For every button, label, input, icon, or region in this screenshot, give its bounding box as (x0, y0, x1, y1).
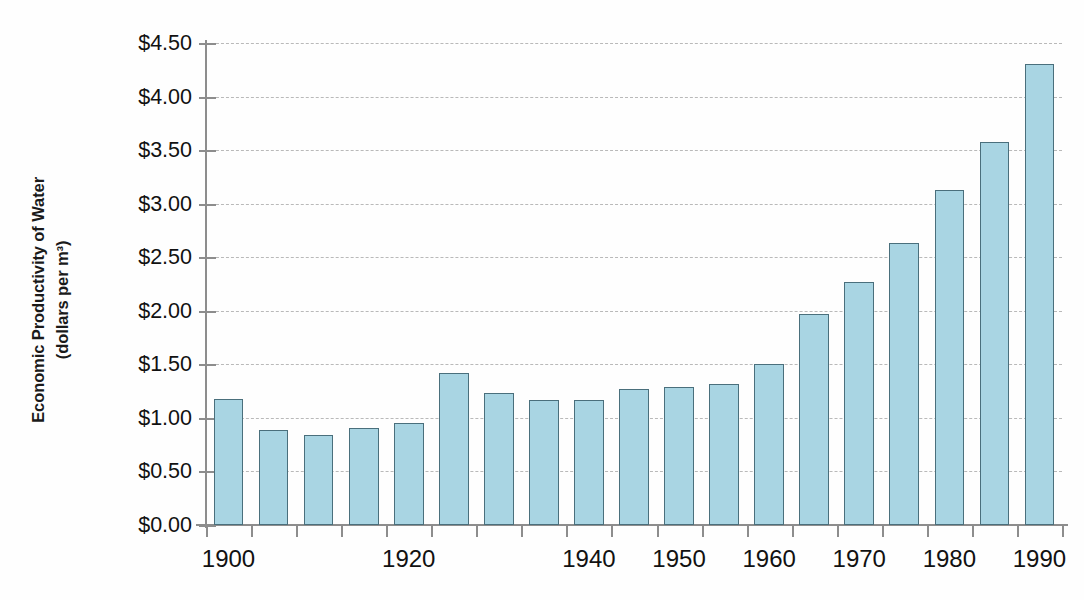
x-axis-tick (747, 525, 749, 537)
y-axis-tick-label: $4.50 (138, 31, 192, 56)
bar[interactable] (574, 400, 604, 525)
x-axis-tick (566, 525, 568, 537)
y-axis-tick-label: $3.50 (138, 138, 192, 163)
y-axis-title: Economic Productivity of Water (dollars … (27, 177, 75, 423)
y-axis-title-line-1: Economic Productivity of Water (29, 177, 47, 423)
bar[interactable] (799, 314, 829, 525)
x-axis-tick (521, 525, 523, 537)
bar[interactable] (214, 399, 244, 525)
x-axis-tick (702, 525, 704, 537)
y-axis-tick-label: $0.00 (138, 513, 192, 538)
x-axis-tick (1017, 525, 1019, 537)
x-axis-tick-label: 1960 (742, 545, 795, 573)
y-axis-tick-label: $1.00 (138, 405, 192, 430)
bar[interactable] (439, 373, 469, 525)
x-axis-tick-label: 1900 (202, 545, 255, 573)
x-axis-tick-label: 1970 (833, 545, 886, 573)
bar[interactable] (754, 364, 784, 525)
y-axis-tick-label: $2.00 (138, 298, 192, 323)
y-axis-tick-label: $3.00 (138, 191, 192, 216)
x-axis-tick (882, 525, 884, 537)
bar-series (206, 43, 1062, 525)
x-axis-ticks (206, 525, 1062, 539)
y-axis-tick-labels: $4.50$4.00$3.50$3.00$2.50$2.00$1.50$1.00… (96, 43, 200, 525)
x-axis-tick (972, 525, 974, 537)
x-axis-tick (611, 525, 613, 537)
y-axis-tick-label: $4.00 (138, 84, 192, 109)
x-axis-tick-label: 1950 (652, 545, 705, 573)
x-axis-tick-label: 1940 (562, 545, 615, 573)
bar[interactable] (304, 435, 334, 525)
y-axis-tick-label: $1.50 (138, 352, 192, 377)
bar[interactable] (259, 430, 289, 525)
x-axis-tick (431, 525, 433, 537)
bar[interactable] (664, 387, 694, 525)
x-axis-tick (296, 525, 298, 537)
bar[interactable] (484, 393, 514, 525)
x-axis-tick-label: 1980 (923, 545, 976, 573)
bar[interactable] (844, 282, 874, 525)
bar[interactable] (619, 389, 649, 525)
x-axis-tick-label: 1920 (382, 545, 435, 573)
x-axis-tick (386, 525, 388, 537)
bar[interactable] (394, 423, 424, 525)
x-axis-tick (206, 525, 208, 537)
y-axis-title-line-2: (dollars per m³) (51, 177, 75, 423)
chart-figure: Economic Productivity of Water (dollars … (0, 0, 1084, 600)
x-axis-tick (476, 525, 478, 537)
bar[interactable] (935, 190, 965, 525)
y-axis-title-container: Economic Productivity of Water (dollars … (8, 0, 94, 600)
bar[interactable] (1025, 64, 1055, 525)
bar[interactable] (709, 384, 739, 525)
y-axis-tick-label: $0.50 (138, 459, 192, 484)
x-axis-tick (1062, 525, 1064, 537)
x-axis-tick (837, 525, 839, 537)
x-axis-tick (657, 525, 659, 537)
bar[interactable] (349, 428, 379, 525)
x-axis-tick (927, 525, 929, 537)
x-axis-tick-label: 1990 (1013, 545, 1066, 573)
x-axis-tick (792, 525, 794, 537)
bar[interactable] (529, 400, 559, 525)
x-axis-tick-labels: 1900192019401950196019701980199020002010 (0, 545, 1084, 585)
bar[interactable] (889, 243, 919, 525)
bar[interactable] (980, 142, 1010, 525)
x-axis-tick (251, 525, 253, 537)
x-axis-tick (341, 525, 343, 537)
y-axis-tick-label: $2.50 (138, 245, 192, 270)
